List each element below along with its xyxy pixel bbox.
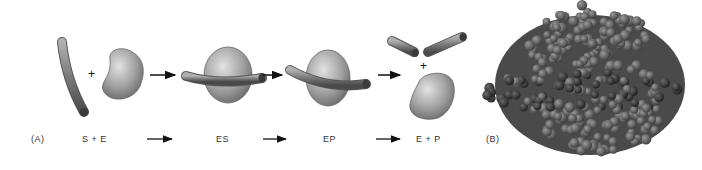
substrate-rod xyxy=(62,42,89,116)
step-label-es: ES xyxy=(216,134,229,144)
panel-a-label: (A) xyxy=(31,134,45,144)
es-complex xyxy=(186,47,266,103)
enzyme-shape xyxy=(102,49,143,99)
products xyxy=(392,33,467,57)
released-enzyme xyxy=(410,73,454,119)
panel-b-label: (B) xyxy=(486,134,500,144)
ep-complex xyxy=(290,50,370,106)
enzyme-substrate-diagram: + + xyxy=(0,0,702,170)
plus-sign: + xyxy=(420,59,427,73)
plus-sign: + xyxy=(88,67,95,81)
step-label-e-plus-p: E + P xyxy=(416,134,441,144)
step-label-ep: EP xyxy=(323,134,336,144)
step-label-s-plus-e: S + E xyxy=(82,134,107,144)
protein-space-filling-model xyxy=(482,0,685,156)
